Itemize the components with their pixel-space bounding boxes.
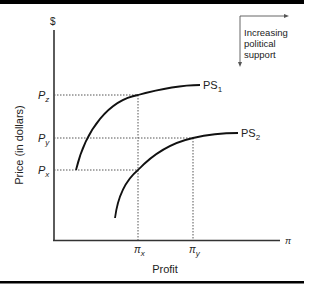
pz-label: Pz (38, 89, 49, 104)
x-axis-symbol: π (285, 236, 292, 246)
guide-lines (54, 95, 193, 240)
legend-line-3: support (244, 49, 276, 60)
ps2-curve (115, 133, 238, 218)
ps1-label: PS1 (203, 79, 223, 94)
arrow-right-icon (284, 14, 289, 18)
y-axis-symbol: $ (50, 16, 56, 27)
px-label: Px (38, 164, 50, 179)
political-support-diagram: $ π Price (in dollars) Profit PS1 PS2 Pz… (0, 0, 309, 286)
x-axis-label: Profit (152, 263, 178, 275)
legend-line-2: political (244, 38, 276, 49)
legend-line-1: Increasing (244, 27, 288, 38)
y-axis-label: Price (in dollars) (13, 105, 25, 184)
ps2-label: PS2 (241, 127, 261, 142)
py-label: Py (38, 132, 50, 147)
arrow-down-icon (238, 62, 242, 67)
pix-label: πx (134, 244, 146, 258)
ps1-curve (76, 85, 200, 170)
top-border-rule (0, 0, 304, 4)
bottom-border-rule (0, 281, 304, 284)
piy-label: πy (189, 244, 201, 258)
